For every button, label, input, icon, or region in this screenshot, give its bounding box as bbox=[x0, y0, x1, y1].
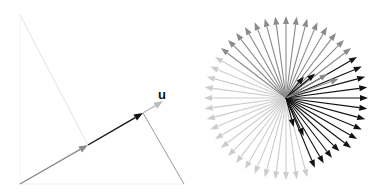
arrowhead-icon bbox=[273, 171, 279, 179]
black-vector-shaft bbox=[88, 118, 135, 145]
arrowhead-icon bbox=[153, 101, 163, 109]
arrowhead-icon bbox=[283, 16, 289, 24]
arrowhead-icon bbox=[221, 141, 229, 148]
arrowhead-icon bbox=[359, 105, 367, 111]
arrowhead-icon bbox=[330, 79, 339, 85]
arrowhead-icon bbox=[360, 95, 368, 101]
arrowhead-icon bbox=[353, 124, 362, 130]
starburst-vector-16-shaft bbox=[215, 79, 286, 98]
arrowhead-icon bbox=[236, 155, 243, 163]
arrowhead-icon bbox=[302, 19, 308, 28]
arrowhead-icon bbox=[255, 22, 261, 31]
vector-u-label: u bbox=[158, 87, 166, 102]
starburst-vector-24-shaft bbox=[267, 27, 286, 98]
gray-vector-shaft bbox=[20, 149, 80, 184]
arrowhead-icon bbox=[349, 57, 357, 64]
arrowhead-icon bbox=[319, 74, 327, 81]
arrowhead-icon bbox=[215, 132, 223, 139]
arrowhead-icon bbox=[273, 17, 279, 25]
arrowhead-icon bbox=[78, 145, 88, 153]
arrowhead-icon bbox=[204, 95, 212, 101]
arrowhead-icon bbox=[215, 57, 223, 64]
arrowhead-icon bbox=[343, 141, 351, 148]
arrowhead-icon bbox=[207, 76, 216, 82]
arrowhead-icon bbox=[353, 67, 362, 73]
arrowhead-icon bbox=[309, 159, 315, 168]
arrowhead-icon bbox=[320, 27, 327, 35]
arrowhead-icon bbox=[236, 33, 243, 41]
starburst-vector-12-shaft bbox=[215, 98, 286, 117]
arrowhead-icon bbox=[302, 169, 308, 178]
arrowhead-icon bbox=[317, 155, 324, 163]
arrowhead-icon bbox=[312, 22, 318, 31]
arrowhead-icon bbox=[133, 113, 143, 121]
arrowhead-icon bbox=[283, 172, 289, 180]
projection-line bbox=[143, 113, 184, 184]
starburst-vector-36-shaft bbox=[286, 98, 357, 117]
arrowhead-icon bbox=[207, 114, 216, 120]
diagram-canvas: u bbox=[0, 0, 387, 193]
arrowhead-icon bbox=[293, 171, 299, 179]
arrowhead-icon bbox=[221, 48, 229, 55]
arrowhead-icon bbox=[255, 165, 261, 174]
u-vector-shaft bbox=[143, 106, 155, 113]
arrowhead-icon bbox=[210, 124, 219, 130]
arrowhead-icon bbox=[245, 27, 252, 35]
starburst-vector-4-shaft bbox=[267, 98, 286, 169]
arrowhead-icon bbox=[205, 85, 213, 91]
arrowhead-icon bbox=[325, 150, 332, 158]
diagonal-faint bbox=[20, 15, 88, 145]
arrowhead-icon bbox=[359, 85, 367, 91]
arrowhead-icon bbox=[357, 76, 366, 82]
arrowhead-icon bbox=[264, 169, 270, 178]
arrowhead-icon bbox=[245, 161, 252, 169]
arrowhead-icon bbox=[343, 48, 351, 55]
arrowhead-icon bbox=[357, 114, 366, 120]
arrowhead-icon bbox=[329, 33, 336, 41]
arrowhead-icon bbox=[205, 105, 213, 111]
starburst-vectors-diagram bbox=[204, 16, 368, 180]
arrowhead-icon bbox=[264, 19, 270, 28]
arrowhead-icon bbox=[293, 17, 299, 25]
arrowhead-icon bbox=[210, 67, 219, 73]
arrowhead-icon bbox=[349, 132, 357, 139]
